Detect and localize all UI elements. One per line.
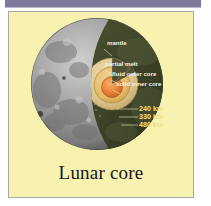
lunar-core-diagram: mantle partial melt fluid outer core sol…	[9, 12, 193, 164]
figure-caption: Lunar core	[9, 162, 193, 184]
label-fluid-outer-core: fluid outer core	[112, 70, 157, 77]
label-depth-480: 480 km	[139, 120, 163, 129]
label-partial-melt: partial melt	[105, 60, 138, 67]
lunar-core-figure-panel: mantle partial melt fluid outer core sol…	[8, 11, 194, 198]
label-solid-inner-core: solid inner core	[116, 80, 162, 87]
figure-page: mantle partial melt fluid outer core sol…	[0, 0, 211, 206]
decorative-top-bar	[5, 0, 201, 8]
label-mantle: mantle	[107, 39, 127, 46]
